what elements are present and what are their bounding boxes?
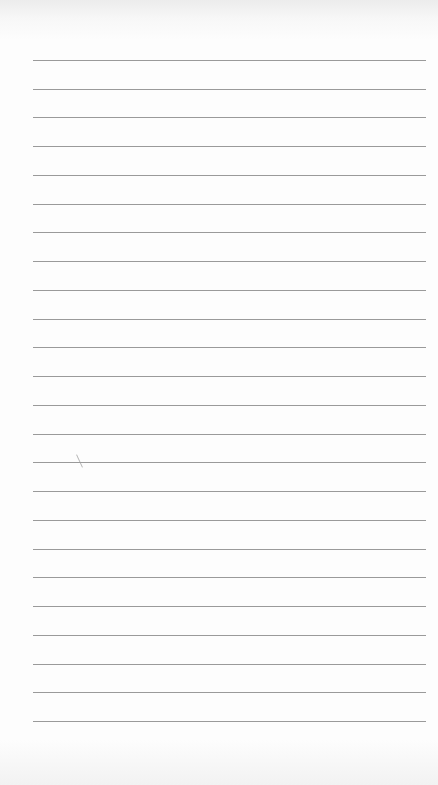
ruled-line bbox=[33, 261, 426, 262]
ruled-line bbox=[33, 175, 426, 176]
ruled-line bbox=[33, 635, 426, 636]
pencil-mark bbox=[76, 454, 83, 467]
ruled-line bbox=[33, 232, 426, 233]
ruled-line bbox=[33, 405, 426, 406]
lined-page bbox=[0, 0, 438, 785]
ruled-line bbox=[33, 117, 426, 118]
ruled-line bbox=[33, 434, 426, 435]
ruled-line bbox=[33, 462, 426, 463]
ruled-line bbox=[33, 146, 426, 147]
ruled-line bbox=[33, 204, 426, 205]
ruled-line bbox=[33, 376, 426, 377]
ruled-line bbox=[33, 491, 426, 492]
ruled-line bbox=[33, 319, 426, 320]
ruled-line bbox=[33, 692, 426, 693]
ruled-line bbox=[33, 721, 426, 722]
ruled-line bbox=[33, 606, 426, 607]
ruled-line bbox=[33, 520, 426, 521]
ruled-line bbox=[33, 347, 426, 348]
ruled-line bbox=[33, 664, 426, 665]
ruled-line bbox=[33, 549, 426, 550]
ruled-line bbox=[33, 60, 426, 61]
ruled-line bbox=[33, 89, 426, 90]
ruled-line bbox=[33, 577, 426, 578]
ruled-line bbox=[33, 290, 426, 291]
